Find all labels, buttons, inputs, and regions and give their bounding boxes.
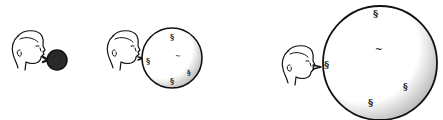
panel-1: § § ~ [12,31,67,70]
spiral-galaxy-icon: § [53,53,56,59]
spiral-galaxy-icon: § [403,82,408,92]
spiral-galaxy-icon: § [170,75,174,85]
panel-2: § § ~ § § [107,28,202,88]
boy-head-icon [282,46,315,85]
spiral-galaxy-icon: § [58,59,61,65]
spiral-galaxy-icon: § [373,8,378,19]
panel-3: § § ~ § § [282,6,437,120]
boy-head-icon [12,31,45,70]
spiral-galaxy-icon: ~ [375,44,383,54]
spiral-galaxy-icon: § [146,55,150,65]
boy-head-icon [107,31,140,70]
large-balloon [323,6,437,120]
spiral-galaxy-icon: § [187,68,191,77]
spiral-galaxy-icon: § [368,97,373,108]
balloon-expansion-illustration: § § ~ § § ~ § § § § ~ § § [0,0,443,120]
spiral-galaxy-icon: ~ [59,53,62,58]
spiral-galaxy-icon: ~ [175,51,181,60]
balloon-neck [313,65,321,69]
small-balloon [47,50,67,70]
spiral-galaxy-icon: § [324,59,329,70]
spiral-galaxy-icon: § [170,31,174,41]
